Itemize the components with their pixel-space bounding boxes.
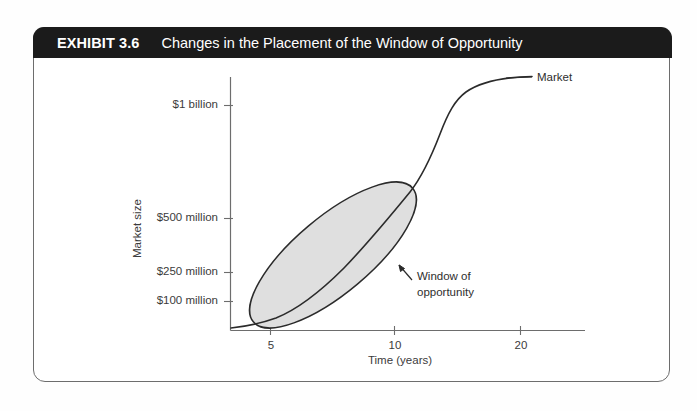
window-of-opportunity-label: Window of opportunity [417, 269, 474, 300]
exhibit-number-label: EXHIBIT 3.6 [57, 35, 140, 51]
exhibit-header-bar: EXHIBIT 3.6 Changes in the Placement of … [33, 27, 672, 58]
window-of-opportunity-label-line-2: opportunity [417, 285, 474, 301]
y-tick-label-250-million: $250 million [118, 265, 218, 277]
exhibit-frame [33, 27, 670, 382]
x-tick-label-20: 20 [506, 339, 536, 351]
window-of-opportunity-label-line-1: Window of [417, 269, 474, 285]
x-axis-title: Time (years) [340, 354, 460, 366]
y-tick-label-100-million: $100 million [118, 294, 218, 306]
exhibit-title: Changes in the Placement of the Window o… [162, 35, 523, 51]
y-axis-title: Market size [131, 199, 143, 258]
x-tick-label-5: 5 [256, 339, 286, 351]
y-tick-label-1-billion: $1 billion [118, 98, 218, 110]
x-tick-label-10: 10 [380, 339, 410, 351]
market-curve-label: Market [537, 70, 572, 86]
